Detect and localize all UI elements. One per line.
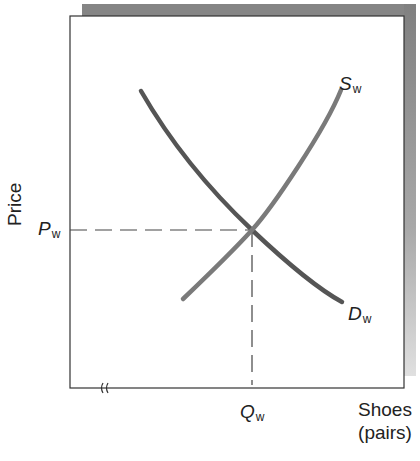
supply-demand-diagram bbox=[0, 0, 420, 461]
quantity-subscript: w bbox=[256, 410, 265, 424]
price-subscript: w bbox=[52, 227, 61, 241]
price-equilibrium-label: Pw bbox=[38, 219, 60, 238]
supply-subscript: w bbox=[353, 82, 362, 96]
x-axis-label-line1: Shoes bbox=[350, 398, 420, 421]
quantity-equilibrium-label: Qw bbox=[240, 402, 264, 421]
price-symbol: P bbox=[38, 218, 51, 239]
frame-shadow-top bbox=[82, 4, 416, 17]
demand-symbol: D bbox=[348, 303, 362, 324]
frame-shadow-right bbox=[404, 4, 416, 376]
y-axis-label: Price bbox=[4, 183, 26, 226]
demand-subscript: w bbox=[363, 312, 372, 326]
supply-symbol: S bbox=[339, 73, 352, 94]
plot-frame bbox=[70, 16, 404, 388]
x-axis-label-line2: (pairs) bbox=[350, 421, 420, 444]
quantity-symbol: Q bbox=[240, 401, 255, 422]
demand-curve-label: Dw bbox=[348, 304, 371, 323]
supply-curve-label: Sw bbox=[339, 74, 361, 93]
x-axis-label: Shoes (pairs) bbox=[350, 398, 420, 444]
y-axis-label-text: Price bbox=[4, 183, 25, 226]
